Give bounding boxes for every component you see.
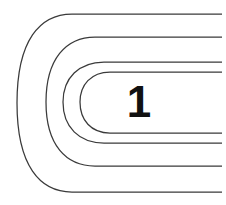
contour-canvas: 1 <box>0 0 226 205</box>
figure-background <box>0 0 226 205</box>
contour-figure: 1 <box>0 0 226 205</box>
region-label: 1 <box>127 77 151 126</box>
